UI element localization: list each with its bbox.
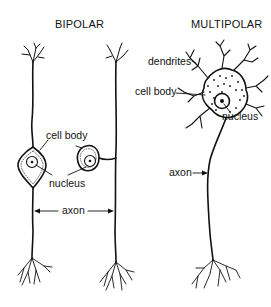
bipolar-axon-label: axon <box>62 205 85 216</box>
bipolar-title: BIPOLAR <box>55 19 104 30</box>
bipolar-nucleus-label: nucleus <box>49 178 85 189</box>
multipolar-nucleus-label: nucleus <box>222 111 258 122</box>
multipolar-axon-label: axon <box>169 167 192 178</box>
neuron-diagram: BIPOLAR MULTIPOLAR cell body nucleus axo… <box>0 0 271 307</box>
multipolar-cell-body-label: cell body <box>135 86 176 97</box>
multipolar-title: MULTIPOLAR <box>191 19 262 30</box>
neuron-drawing <box>0 0 271 307</box>
multipolar-neuron <box>178 40 268 288</box>
bipolar-neuron-right <box>77 43 134 290</box>
bipolar-neuron-left <box>18 43 52 285</box>
bipolar-cell-body-label: cell body <box>46 130 87 141</box>
multipolar-dendrites-label: dendrites <box>148 56 191 67</box>
